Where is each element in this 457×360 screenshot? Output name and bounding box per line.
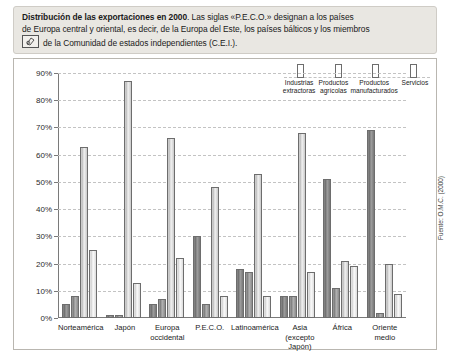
bar[interactable] <box>385 264 393 318</box>
bar[interactable] <box>263 296 271 318</box>
legend-swatch-servicios <box>410 64 417 78</box>
y-axis-tick <box>54 318 58 319</box>
x-axis-label-line: P.E.C.O. <box>188 323 230 333</box>
bar-group <box>276 73 320 318</box>
y-axis-tick-label: 0% <box>40 314 52 323</box>
y-axis-tick-label: 50% <box>36 177 52 186</box>
y-axis-tick-label: 10% <box>36 286 52 295</box>
bar[interactable] <box>176 258 184 318</box>
bar[interactable] <box>71 296 79 318</box>
x-axis-label: África <box>321 322 363 348</box>
bar[interactable] <box>149 304 157 318</box>
chart-page: Distribución de las exportaciones en 200… <box>0 0 457 360</box>
x-axis-label: Latinoamérica <box>231 322 279 348</box>
x-axis-label-line: Oriente medio <box>364 323 406 342</box>
bar-group <box>102 73 146 318</box>
caption-bold-lead: Distribución de las exportaciones en 200… <box>22 12 187 22</box>
x-axis-label-line: Latinoamérica <box>231 323 279 333</box>
y-axis-tick-label: 20% <box>36 259 52 268</box>
bar[interactable] <box>376 313 384 318</box>
bar-group <box>145 73 189 318</box>
bar[interactable] <box>307 272 315 318</box>
bar[interactable] <box>202 304 210 318</box>
x-axis-label: P.E.C.O. <box>188 322 230 348</box>
x-axis-label-line: Europa <box>146 323 188 333</box>
bar[interactable] <box>394 294 402 319</box>
x-axis-label-line: Norteamérica <box>58 323 104 333</box>
bar[interactable] <box>298 133 306 318</box>
bar[interactable] <box>193 236 201 318</box>
bar[interactable] <box>341 261 349 318</box>
bar[interactable] <box>167 138 175 318</box>
bar-group <box>363 73 407 318</box>
x-axis-label: Europaoccidental <box>146 322 188 348</box>
bar[interactable] <box>236 269 244 318</box>
bar[interactable] <box>367 130 375 318</box>
y-axis-tick-label: 70% <box>36 123 52 132</box>
bar[interactable] <box>254 174 262 318</box>
x-axis-labels: NorteaméricaJapónEuropaoccidentalP.E.C.O… <box>58 322 406 348</box>
x-axis-label: Japón <box>104 322 146 348</box>
bar[interactable] <box>158 299 166 318</box>
bar[interactable] <box>89 250 97 318</box>
y-axis-tick-label: 30% <box>36 232 52 241</box>
bar[interactable] <box>323 179 331 318</box>
x-axis-label-line: Japón <box>104 323 146 333</box>
caption-text: Distribución de las exportaciones en 200… <box>22 12 428 50</box>
caption-box: Distribución de las exportaciones en 200… <box>13 6 437 54</box>
bar[interactable] <box>133 283 141 318</box>
bar[interactable] <box>245 272 253 318</box>
x-axis-label-line: África <box>321 323 363 333</box>
bar-group <box>319 73 363 318</box>
caption-line2: de Europa central y oriental, es decir, … <box>22 24 370 34</box>
bar[interactable] <box>289 296 297 318</box>
bar-group <box>189 73 233 318</box>
bar[interactable] <box>280 296 288 318</box>
bar[interactable] <box>211 187 219 318</box>
x-axis-label-line: occidental <box>146 333 188 343</box>
y-axis-tick-label: 60% <box>36 150 52 159</box>
bar[interactable] <box>115 315 123 318</box>
bar[interactable] <box>106 315 114 318</box>
x-axis-label-line: (excepto Japón) <box>279 333 321 352</box>
bar-group <box>232 73 276 318</box>
bar[interactable] <box>62 304 70 318</box>
x-axis-label: Asia(excepto Japón) <box>279 322 321 348</box>
y-axis-tick-label: 40% <box>36 205 52 214</box>
bar[interactable] <box>124 81 132 318</box>
bar-groups <box>58 73 406 318</box>
caption-line3: de la Comunidad de estados independiente… <box>43 38 237 48</box>
bar-group <box>58 73 102 318</box>
y-axis-tick-label: 80% <box>36 96 52 105</box>
x-axis-label-line: Asia <box>279 323 321 333</box>
key-pointer-icon <box>22 35 39 48</box>
source-credit: Fuente: O.M.C. (2000) <box>437 176 444 240</box>
chart-frame: Industrias extractoras Productos agrícol… <box>13 58 437 350</box>
x-axis-label: Norteamérica <box>58 322 104 348</box>
bar[interactable] <box>350 266 358 318</box>
y-axis-tick-label: 90% <box>36 69 52 78</box>
plot-area: 0%10%20%30%40%50%60%70%80%90% <box>58 73 406 318</box>
caption-line1-rest: . Las siglas «P.E.C.O.» designan a los p… <box>187 12 354 22</box>
x-axis-label: Oriente medio <box>364 322 406 348</box>
bar[interactable] <box>332 288 340 318</box>
bar[interactable] <box>220 296 228 318</box>
bar[interactable] <box>80 147 88 319</box>
